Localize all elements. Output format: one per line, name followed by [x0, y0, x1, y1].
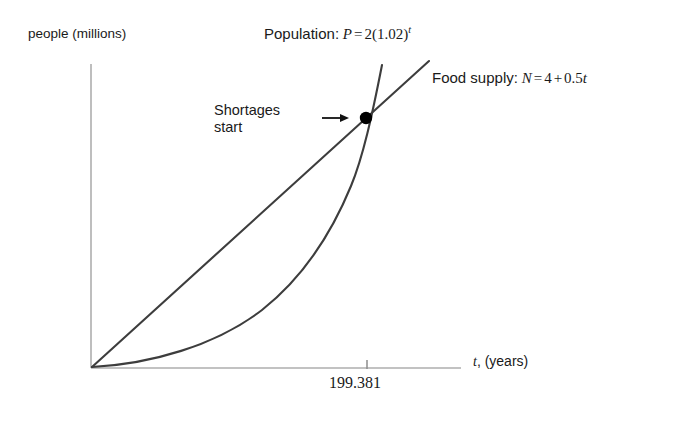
population-formula-lhs: P — [343, 26, 352, 42]
population-formula-coefficient: 2 — [364, 26, 372, 42]
y-axis-label: people (millions) — [28, 26, 126, 42]
shortages-arrow-icon — [322, 114, 349, 122]
food-formula-slope: 0.5 — [564, 70, 583, 86]
population-formula-exponent: t — [408, 24, 411, 35]
food-formula-lhs: N — [522, 70, 532, 86]
intersection-marker — [360, 112, 372, 124]
population-label-prefix: Population: — [264, 25, 339, 42]
chart-figure: people (millions) Population: P=2(1.02)t… — [0, 0, 695, 424]
food-formula-intercept: 4 — [544, 70, 552, 86]
x-axis-label: t, (years) — [473, 353, 528, 371]
x-axis-label-units: , (years) — [477, 353, 528, 369]
shortages-annotation-line2: start — [214, 119, 280, 136]
food-formula-variable: t — [583, 70, 587, 86]
food-formula-plus: + — [552, 70, 564, 86]
population-formula-equals: = — [352, 26, 364, 42]
food-label-prefix: Food supply: — [432, 69, 518, 86]
x-axis-tick-label: 199.381 — [329, 374, 381, 393]
chart-plot-area — [0, 0, 695, 424]
population-curve-label: Population: P=2(1.02)t — [264, 24, 411, 44]
shortages-start-annotation: Shortages start — [214, 102, 280, 136]
shortages-annotation-line1: Shortages — [214, 102, 280, 119]
population-formula-base: 1.02 — [377, 26, 403, 42]
food-supply-line-label: Food supply: N=4+0.5t — [432, 69, 587, 88]
food-formula-equals: = — [532, 70, 544, 86]
